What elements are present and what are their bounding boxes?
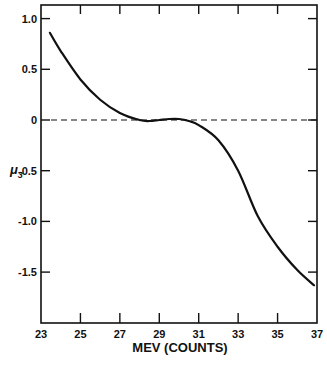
plot-frame xyxy=(41,5,317,323)
y-tick-label: 0 xyxy=(31,114,37,126)
y-tick-label: 1.0 xyxy=(22,13,37,25)
tick-labels: 23252729313335371.00.50-0.5-1.0-1.5 xyxy=(18,13,323,340)
y-tick-label: -1.0 xyxy=(18,215,37,227)
x-axis-title: MEV (COUNTS) xyxy=(132,340,227,355)
mu3-curve xyxy=(50,33,314,285)
y-tick-label: -1.5 xyxy=(18,266,37,278)
x-tick-label: 23 xyxy=(35,328,47,340)
x-tick-label: 27 xyxy=(114,328,126,340)
x-tick-label: 29 xyxy=(153,328,165,340)
y-axis-title-sub: 3 xyxy=(18,170,23,180)
y-tick-label: 0.5 xyxy=(22,63,37,75)
ticks xyxy=(41,5,317,323)
x-tick-label: 35 xyxy=(271,328,283,340)
y-axis-title-main: μ xyxy=(9,162,18,177)
x-tick-label: 37 xyxy=(311,328,323,340)
chart: 23252729313335371.00.50-0.5-1.0-1.5 MEV … xyxy=(0,0,327,369)
x-tick-label: 33 xyxy=(232,328,244,340)
x-tick-label: 25 xyxy=(74,328,86,340)
x-tick-label: 31 xyxy=(193,328,205,340)
